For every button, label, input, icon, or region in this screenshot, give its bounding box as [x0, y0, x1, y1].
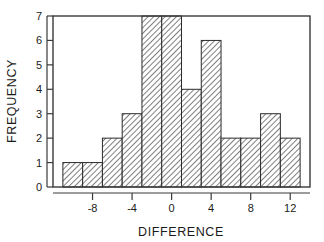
y-axis-title: FREQUENCY: [5, 59, 19, 143]
histogram-plot: 01234567 -8-404812 DIFFERENCE FREQUENCY: [0, 0, 324, 242]
histogram-bar: [201, 40, 221, 187]
histogram-figure: 01234567 -8-404812 DIFFERENCE FREQUENCY: [0, 0, 324, 242]
x-axis-title: DIFFERENCE: [138, 225, 224, 239]
y-axis-tick-label: 4: [36, 83, 42, 95]
histogram-bar: [122, 114, 142, 187]
x-axis-tick-label: 12: [284, 202, 296, 214]
y-axis-tick-label: 2: [36, 132, 42, 144]
histogram-bar: [261, 114, 281, 187]
y-axis-tick-label: 0: [36, 181, 42, 193]
y-axis-tick-label: 7: [36, 10, 42, 22]
histogram-bar: [221, 138, 241, 187]
histogram-bar: [162, 16, 182, 187]
y-axis-tick-label: 5: [36, 59, 42, 71]
y-axis-tick-label: 3: [36, 108, 42, 120]
histogram-bar: [63, 163, 83, 187]
y-axis-tick-label: 1: [36, 157, 42, 169]
y-axis-tick-label: 6: [36, 34, 42, 46]
histogram-bar: [241, 138, 261, 187]
x-axis-tick-label: 4: [208, 202, 214, 214]
histogram-bar: [102, 138, 122, 187]
x-axis-tick-label: 0: [169, 202, 175, 214]
histogram-bar: [83, 163, 103, 187]
histogram-bar: [280, 138, 300, 187]
histogram-bar: [142, 16, 162, 187]
x-axis-tick-label: -4: [127, 202, 137, 214]
x-axis-tick-label: -8: [88, 202, 98, 214]
x-axis-tick-label: 8: [248, 202, 254, 214]
histogram-bar: [182, 89, 202, 187]
